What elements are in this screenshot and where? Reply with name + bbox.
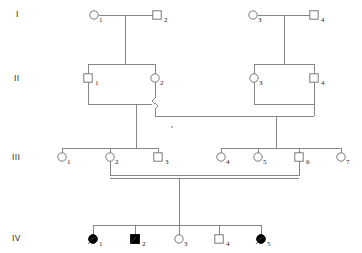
pedigree-canvas: IIIIIIIV 12341234123456712345	[0, 0, 362, 253]
generation-label-i: I	[16, 9, 19, 19]
id-label-i-4: 4	[321, 16, 325, 24]
id-label-ii-1: 1	[95, 79, 99, 87]
generation-label-group: IIIIIIIV	[12, 9, 21, 243]
individual-i-4-square-unaffected[interactable]	[310, 11, 318, 19]
id-label-ii-4: 4	[321, 79, 325, 87]
individual-iii-5-circle-unaffected[interactable]	[254, 153, 262, 161]
individual-iii-1-circle-unaffected[interactable]	[58, 153, 66, 161]
individual-i-3-circle-unaffected[interactable]	[249, 11, 257, 19]
id-label-iv-4: 4	[226, 240, 230, 248]
individual-iii-7-circle-unaffected[interactable]	[337, 153, 345, 161]
individual-ii-2-circle-unaffected[interactable]	[151, 74, 159, 82]
id-label-iii-7: 7	[346, 158, 350, 166]
id-label-iii-1: 1	[67, 158, 71, 166]
individual-ii-1-square-unaffected[interactable]	[84, 74, 92, 82]
id-label-iii-6: 6	[306, 158, 310, 166]
individual-iv-4-square-unaffected[interactable]	[215, 235, 223, 243]
id-label-iv-3: 3	[184, 240, 188, 248]
individual-symbol-group	[58, 11, 345, 244]
mating-II1-II2-hop	[152, 82, 158, 116]
pedigree-chart: IIIIIIIV 12341234123456712345	[0, 0, 362, 253]
id-label-iv-2: 2	[142, 240, 146, 248]
id-label-i-2: 2	[164, 16, 168, 24]
individual-ii-3-circle-unaffected[interactable]	[250, 74, 258, 82]
individual-iii-4-circle-unaffected[interactable]	[217, 153, 225, 161]
individual-iii-2-circle-unaffected[interactable]	[106, 153, 114, 161]
id-label-iv-5: 5	[267, 240, 271, 248]
generation-label-iii: III	[12, 152, 20, 162]
stray-dot	[171, 126, 173, 128]
id-label-iii-5: 5	[263, 158, 267, 166]
id-label-i-3: 3	[258, 16, 262, 24]
id-label-iii-4: 4	[226, 158, 230, 166]
individual-id-label-group: 12341234123456712345	[67, 16, 350, 248]
id-label-iii-2: 2	[115, 158, 119, 166]
individual-ii-4-square-unaffected[interactable]	[310, 74, 318, 82]
id-label-ii-3: 3	[259, 79, 263, 87]
connector-line-group	[62, 15, 341, 235]
id-label-iv-1: 1	[99, 240, 103, 248]
id-label-i-1: 1	[99, 16, 103, 24]
individual-iii-6-square-unaffected[interactable]	[295, 153, 303, 161]
generation-label-iv: IV	[12, 233, 21, 243]
individual-iv-3-circle-unaffected[interactable]	[175, 235, 183, 243]
id-label-iii-3: 3	[165, 158, 169, 166]
individual-iii-3-square-unaffected[interactable]	[154, 153, 162, 161]
id-label-ii-2: 2	[160, 79, 164, 87]
stray-marks-group	[171, 126, 173, 128]
generation-label-ii: II	[14, 73, 20, 83]
individual-i-2-square-unaffected[interactable]	[153, 11, 161, 19]
individual-i-1-circle-unaffected[interactable]	[90, 11, 98, 19]
